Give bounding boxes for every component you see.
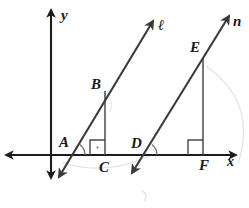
x-axis-label: x xyxy=(226,154,234,169)
diagram-canvas: y x ℓ n A B C D E F xyxy=(0,0,249,208)
point-label-f: F xyxy=(198,157,209,173)
point-label-a: A xyxy=(58,134,69,150)
line-label-l: ℓ xyxy=(158,17,164,33)
line-label-n: n xyxy=(233,13,241,29)
right-angle-icon-f xyxy=(188,140,203,155)
arc-near-e-icon xyxy=(206,66,244,164)
line-l xyxy=(59,21,153,177)
point-label-c: C xyxy=(99,159,110,175)
point-label-e: E xyxy=(189,39,200,55)
geometry-diagram: y x ℓ n A B C D E F xyxy=(0,0,249,208)
axes-group xyxy=(6,10,236,178)
point-label-b: B xyxy=(90,76,101,92)
angle-arc-a-icon xyxy=(80,145,85,156)
angle-arc-d-icon xyxy=(152,145,157,156)
stray-mark-icon xyxy=(142,191,146,201)
line-n xyxy=(132,16,229,173)
point-label-d: D xyxy=(130,135,142,151)
y-axis-label: y xyxy=(59,7,68,23)
scan-artifacts xyxy=(62,66,244,201)
right-angle-marks xyxy=(90,140,203,155)
right-angle-dot-c xyxy=(97,147,99,149)
arc-near-b-icon xyxy=(101,92,112,112)
